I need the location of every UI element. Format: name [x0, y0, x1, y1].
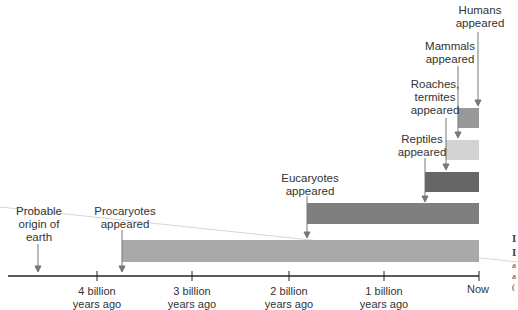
reptiles-label: Reptiles appeared	[392, 133, 452, 159]
tick-label-now: Now	[455, 283, 501, 296]
margin-fragment: I	[512, 232, 516, 244]
tick-label-3b: 3 billion years ago	[157, 285, 227, 310]
origin-earth-arrow	[35, 244, 41, 272]
margin-fragment: a	[512, 271, 516, 281]
tick-label-2b: 2 billion years ago	[254, 285, 324, 310]
humans-label: Humans appeared	[450, 4, 510, 30]
margin-fragment: I	[512, 246, 516, 258]
mammals-label: Mammals appeared	[420, 40, 480, 66]
origin-earth-label: Probable origin of earth	[8, 205, 70, 244]
timeline-diagram: Probable origin of earth Procaryotes app…	[0, 0, 518, 310]
procaryotes-bar	[122, 240, 479, 262]
tick-label-4b: 4 billion years ago	[62, 285, 132, 310]
margin-fragment: (	[512, 282, 515, 292]
eucaryotes-bar	[307, 203, 479, 224]
reptiles-bar	[425, 172, 479, 192]
eucaryotes-label: Eucaryotes appeared	[275, 172, 345, 198]
tick-label-1b: 1 billion years ago	[349, 285, 419, 310]
roaches-termites-label: Roaches, termites appeared	[405, 78, 465, 117]
procaryotes-label: Procaryotes appeared	[90, 205, 160, 231]
margin-fragment: a	[512, 260, 516, 270]
